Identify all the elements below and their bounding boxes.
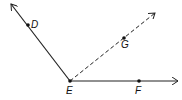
ray-EG [70, 13, 155, 81]
ray-ED [11, 4, 70, 81]
point-D [26, 23, 30, 27]
label-D: D [31, 19, 38, 30]
label-F: F [135, 85, 142, 96]
point-F [137, 79, 141, 83]
angle-diagram: D E G F [0, 0, 182, 100]
label-G: G [121, 39, 129, 50]
point-E [68, 79, 72, 83]
label-E: E [66, 85, 73, 96]
